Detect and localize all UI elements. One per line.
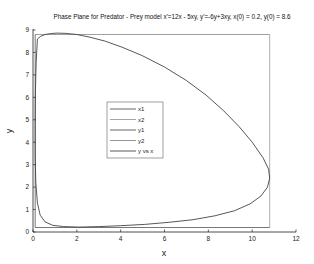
x-tick-label: 0 [31, 235, 35, 242]
y-tick-label: 3 [25, 161, 29, 168]
x-tick-label: 8 [207, 235, 211, 242]
chart-title: Phase Plane for Predator - Prey model x'… [54, 13, 291, 21]
y-axis-ticks: 0123456789 [25, 26, 35, 235]
x-tick-label: 12 [292, 235, 300, 242]
x-tick-label: 6 [163, 235, 167, 242]
y-tick-label: 4 [25, 139, 29, 146]
x-tick-label: 2 [75, 235, 79, 242]
legend: x1x2y1y2y vs x [107, 102, 163, 158]
legend-label: y1 [138, 127, 145, 133]
legend-label: y vs x [138, 148, 153, 154]
legend-label: x1 [138, 106, 145, 112]
y-tick-label: 2 [25, 183, 29, 190]
y-tick-label: 1 [25, 206, 29, 213]
x-axis-label: x [162, 248, 167, 258]
phase-plane-chart: Phase Plane for Predator - Prey model x'… [0, 0, 314, 264]
y-tick-label: 6 [25, 94, 29, 101]
x-axis-ticks: 024681012 [31, 230, 300, 243]
x-tick-label: 4 [119, 235, 123, 242]
y-tick-label: 7 [25, 71, 29, 78]
legend-label: y2 [138, 138, 145, 144]
y-tick-label: 9 [25, 26, 29, 33]
y-tick-label: 0 [25, 228, 29, 235]
legend-label: x2 [138, 117, 145, 123]
y-tick-label: 5 [25, 116, 29, 123]
y-tick-label: 8 [25, 49, 29, 56]
y-axis-label: y [4, 128, 14, 133]
x-tick-label: 10 [249, 235, 257, 242]
